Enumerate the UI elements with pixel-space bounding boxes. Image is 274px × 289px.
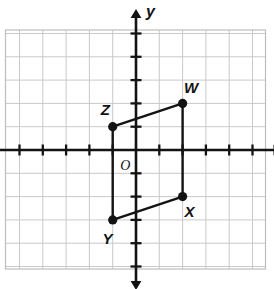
- vertex-label-z: Z: [101, 102, 110, 117]
- axes: [0, 9, 274, 289]
- vertex-label-w: W: [184, 80, 198, 95]
- vertex-label-x: X: [185, 204, 195, 219]
- coordinate-plane-figure: x y O WXYZ: [0, 0, 274, 289]
- origin-label: O: [120, 159, 130, 173]
- y-axis-label: y: [146, 4, 155, 20]
- graph-svg: [0, 0, 274, 289]
- vertex-label-y: Y: [103, 231, 113, 246]
